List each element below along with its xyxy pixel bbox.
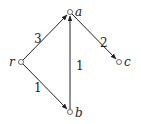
edge-weight-a-c: 2	[100, 36, 108, 50]
node-r	[19, 60, 24, 65]
node-b	[68, 110, 73, 115]
edge-weight-r-b: 1	[34, 81, 42, 95]
node-c	[117, 60, 122, 65]
edge-weight-r-a: 3	[34, 32, 42, 46]
node-label-c: c	[124, 55, 131, 69]
graph-diagram: r a b c 3 2 1 1	[0, 0, 141, 124]
node-label-r: r	[9, 55, 16, 69]
edge-a-c	[72, 14, 116, 59]
node-label-b: b	[75, 106, 83, 120]
node-label-a: a	[75, 5, 82, 19]
node-a	[68, 10, 73, 15]
edge-weight-b-a: 1	[76, 59, 84, 73]
edge-r-b	[23, 64, 67, 109]
edge-r-a	[23, 15, 67, 60]
